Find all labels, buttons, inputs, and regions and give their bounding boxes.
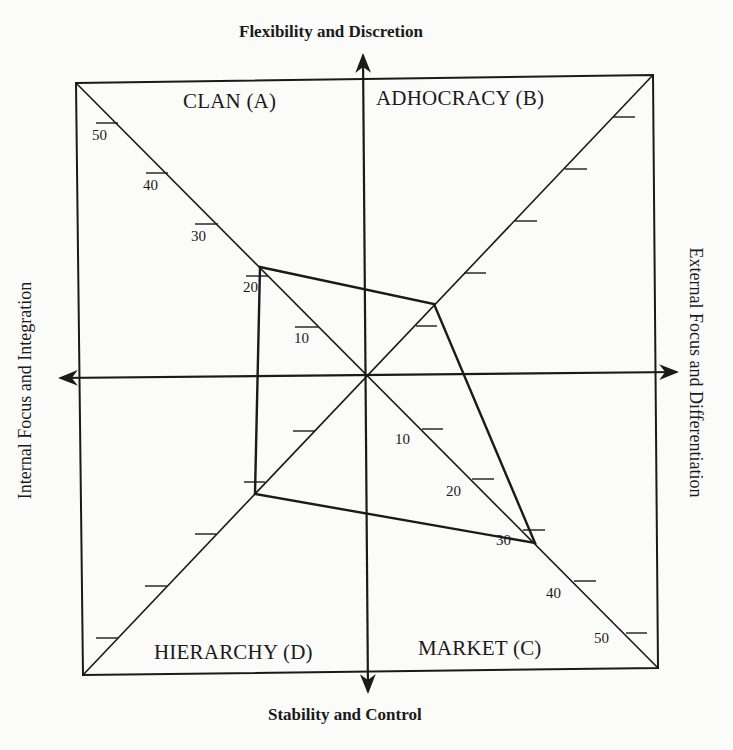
adhocracy-ticks	[416, 117, 635, 326]
vertical-axis-arrow	[363, 55, 368, 692]
market-tick-10: 10	[395, 431, 410, 448]
clan-tick-20: 20	[243, 279, 258, 296]
clan-tick-10: 10	[294, 330, 309, 347]
axis-title-bottom: Stability and Control	[268, 705, 422, 725]
market-ticks	[422, 429, 647, 633]
axis-title-left-text: Internal Focus and Integration	[15, 271, 36, 511]
hierarchy-ticks	[96, 431, 315, 638]
market-tick-40: 40	[546, 585, 561, 602]
axis-title-top: Flexibility and Discretion	[239, 22, 423, 42]
quadrant-label-adhocracy: ADHOCRACY (B)	[376, 86, 544, 111]
clan-tick-30: 30	[191, 228, 206, 245]
axis-title-left: Internal Focus and Integration	[0, 380, 145, 402]
clan-tick-50: 50	[92, 127, 107, 144]
clan-tick-40: 40	[143, 177, 158, 194]
market-tick-20: 20	[446, 483, 461, 500]
market-tick-50: 50	[594, 630, 609, 647]
clan-ticks	[96, 123, 318, 327]
quadrant-label-clan: CLAN (A)	[183, 89, 276, 114]
axis-title-right: External Focus and Differentiation	[565, 362, 733, 384]
axis-title-right-text: External Focus and Differentiation	[685, 243, 706, 503]
quadrant-label-market: MARKET (C)	[418, 636, 542, 661]
quadrant-label-hierarchy: HIERARCHY (D)	[154, 640, 313, 665]
competing-values-diagram: Flexibility and Discretion Stability and…	[0, 0, 733, 750]
market-tick-30: 30	[496, 532, 511, 549]
